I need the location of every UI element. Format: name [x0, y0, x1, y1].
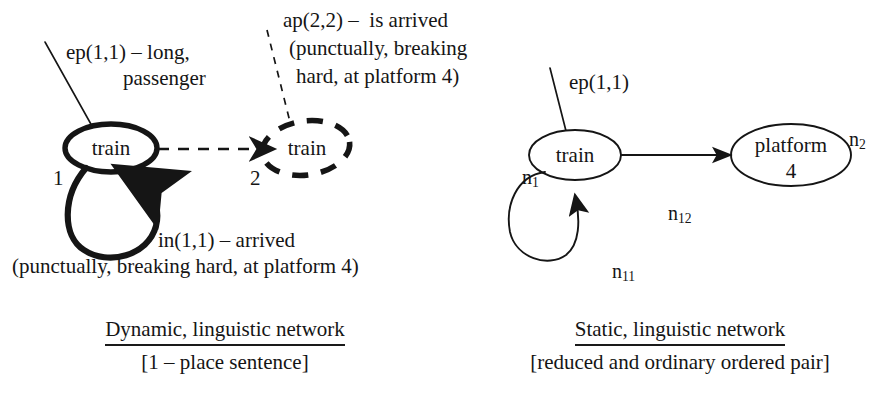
caption-static-subtitle: [reduced and ordinary ordered pair]: [480, 349, 880, 376]
caption-dynamic-subtitle: [1 – place sentence]: [30, 349, 420, 376]
node-marker-n2-base: n: [849, 128, 859, 150]
edge-marker-n12: n12: [648, 178, 692, 250]
annotation-in11-line2: (punctually, breaking hard, at platform …: [12, 254, 359, 279]
edge-marker-n12-base: n: [668, 202, 678, 224]
caption-static: Static, linguistic network [reduced and …: [480, 316, 880, 377]
figure-canvas: ep(1,1) – long, passenger ap(2,2) – is a…: [0, 0, 891, 399]
node-train-static-label: train: [530, 144, 620, 166]
annotation-in11-line1: in(1,1) – arrived: [158, 228, 295, 253]
edge-marker-n11-base: n: [612, 260, 622, 282]
annotation-ep11-line1: ep(1,1) – long,: [66, 40, 190, 65]
node-marker-n2: n2: [829, 104, 866, 176]
leader-line-ep11-static: [550, 68, 566, 131]
annotation-ap22-line3: hard, at platform 4): [296, 64, 459, 89]
leader-line-ap22: [267, 30, 290, 122]
annotation-ep11-line2: passenger: [123, 66, 206, 91]
annotation-ep11-static: ep(1,1): [569, 70, 629, 95]
edge-dynamic-self-loop[interactable]: [68, 168, 158, 258]
node-train-arrived-index: 2: [250, 166, 261, 191]
node-train-dynamic-label: train: [66, 137, 156, 159]
node-marker-n1-sub: 1: [532, 175, 539, 190]
annotation-ap22-line1: ap(2,2) – is arrived: [283, 8, 448, 33]
annotation-ap22-line2: (punctually, breaking: [289, 36, 467, 61]
node-marker-n1-base: n: [522, 166, 532, 188]
caption-dynamic: Dynamic, linguistic network [1 – place s…: [30, 316, 420, 377]
node-train-arrived-label: train: [262, 137, 352, 159]
edge-marker-n11: n11: [592, 236, 635, 308]
node-marker-n2-sub: 2: [859, 137, 866, 152]
edge-marker-n12-sub: 12: [678, 211, 692, 226]
node-train-dynamic-index: 1: [53, 166, 64, 191]
caption-dynamic-title: Dynamic, linguistic network: [105, 316, 345, 346]
caption-static-title: Static, linguistic network: [575, 316, 786, 346]
edge-marker-n11-sub: 11: [622, 269, 635, 284]
